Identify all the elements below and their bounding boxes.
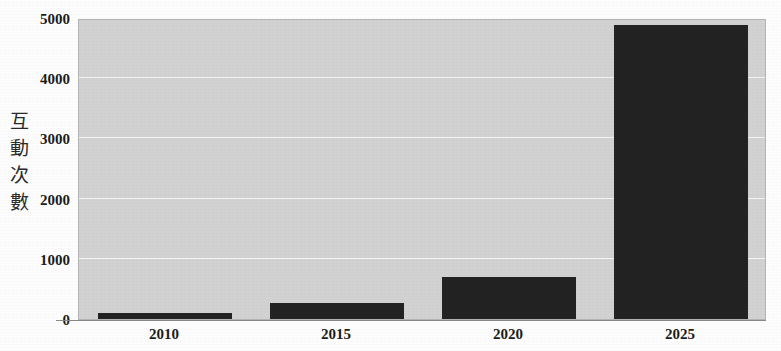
- x-tick-label: 2015: [321, 326, 351, 343]
- y-tick-label: 5000: [0, 11, 78, 28]
- y-tick-label: 1000: [0, 251, 78, 268]
- x-tick-label: 2025: [665, 326, 695, 343]
- bar-chart: 互 動 次 數 010002000300040005000 2010201520…: [0, 0, 781, 351]
- y-tick-label: 3000: [0, 131, 78, 148]
- x-tick-label: 2020: [493, 326, 523, 343]
- bar: [614, 25, 747, 319]
- plot-area: [78, 19, 766, 320]
- bar: [98, 313, 231, 319]
- bars-layer: [79, 20, 765, 319]
- x-axis-ticks: 2010201520202025: [78, 324, 766, 351]
- y-tick-label: 4000: [0, 71, 78, 88]
- bar: [442, 277, 575, 319]
- x-axis-line: [56, 320, 766, 321]
- bar: [270, 303, 403, 319]
- x-tick-label: 2010: [149, 326, 179, 343]
- y-axis-ticks: 010002000300040005000: [0, 0, 78, 351]
- y-tick-label: 2000: [0, 191, 78, 208]
